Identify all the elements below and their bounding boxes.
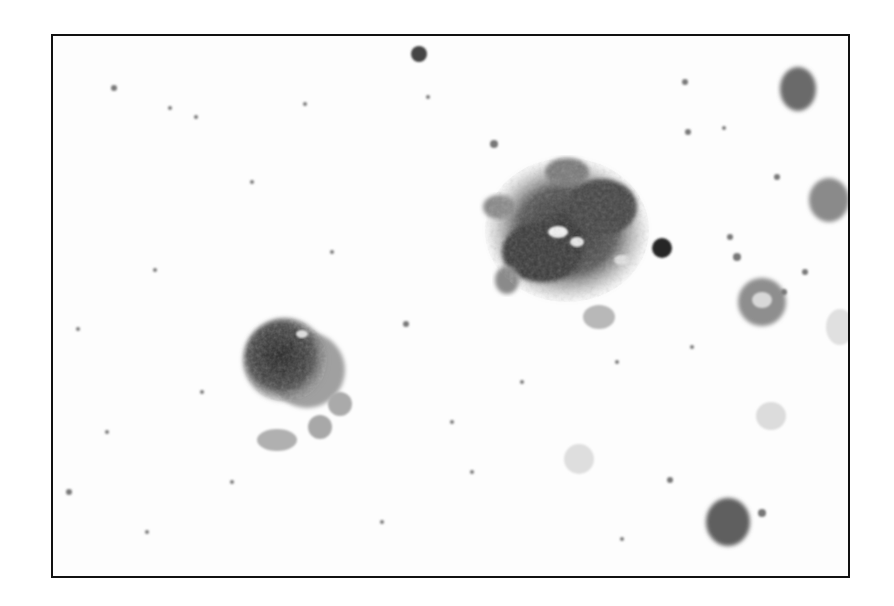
dark-dot-center [652,238,672,258]
large-granular-clump [483,158,649,329]
dark-cell-top-right [780,67,816,111]
pale-cell-ghost [756,402,786,430]
micrograph-frame [51,34,850,578]
dark-cell-bottom-right [706,498,750,546]
debris [66,79,808,541]
dark-dot-top [411,46,427,62]
pale-cell-ghost [564,444,594,474]
pale-cell-ghost [826,309,848,345]
round-granular-cell [243,318,352,451]
lobed-cell-right [809,178,848,222]
micrograph-image [53,36,848,576]
